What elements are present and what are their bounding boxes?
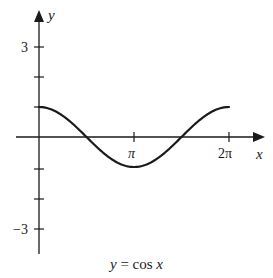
caption-x: x bbox=[156, 256, 163, 272]
chart-caption: y = cos x bbox=[0, 256, 273, 273]
x-axis-label: x bbox=[255, 146, 263, 162]
x-tick-label-2pi: 2π bbox=[218, 146, 232, 161]
y-tick-label-3: 3 bbox=[21, 40, 28, 55]
cosine-plot: y x 3 −3 π 2π bbox=[0, 0, 273, 278]
x-tick-label-pi: π bbox=[128, 146, 136, 161]
caption-eq: = cos bbox=[117, 256, 157, 272]
y-axis-arrow-icon bbox=[34, 10, 44, 22]
caption-y: y bbox=[110, 256, 117, 272]
y-tick-label-neg3: −3 bbox=[13, 222, 28, 237]
y-axis-label: y bbox=[46, 7, 55, 23]
x-axis-arrow-icon bbox=[253, 132, 265, 142]
